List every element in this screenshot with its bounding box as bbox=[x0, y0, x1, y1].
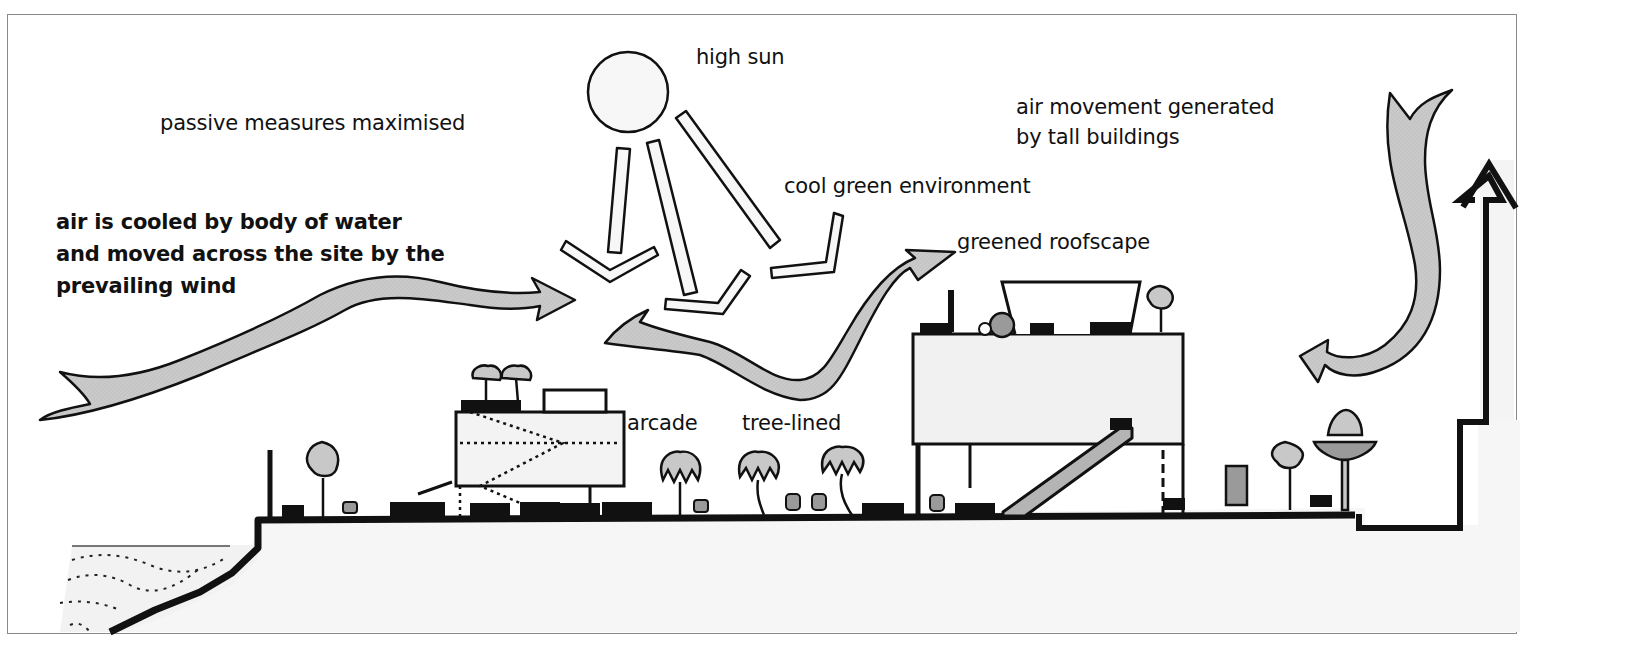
rooftop-palm-icon bbox=[473, 366, 532, 403]
tree-icon bbox=[307, 442, 338, 517]
label-air-movement: air movement generated by tall buildings bbox=[1016, 92, 1274, 152]
label-passive-measures: passive measures maximised bbox=[160, 110, 465, 137]
palm-tree-icon bbox=[822, 447, 863, 515]
label-air-cooled: air is cooled by body of water and moved… bbox=[56, 206, 444, 302]
label-arcade: arcade bbox=[627, 410, 698, 437]
label-greened-roofscape: greened roofscape bbox=[957, 229, 1150, 256]
reflected-rays bbox=[561, 213, 843, 314]
rooftop-tree-icon bbox=[1148, 286, 1173, 332]
diagram-canvas bbox=[0, 0, 1633, 647]
label-cool-green-environment: cool green environment bbox=[784, 173, 1030, 200]
downdraft-arrow bbox=[1300, 90, 1452, 382]
label-high-sun: high sun bbox=[696, 44, 784, 71]
palm-tree-icon bbox=[739, 452, 779, 515]
kiosk bbox=[1226, 466, 1247, 505]
tree-icon bbox=[1272, 442, 1303, 510]
sun-icon bbox=[588, 52, 668, 132]
label-tree-lined: tree-lined bbox=[742, 410, 841, 437]
